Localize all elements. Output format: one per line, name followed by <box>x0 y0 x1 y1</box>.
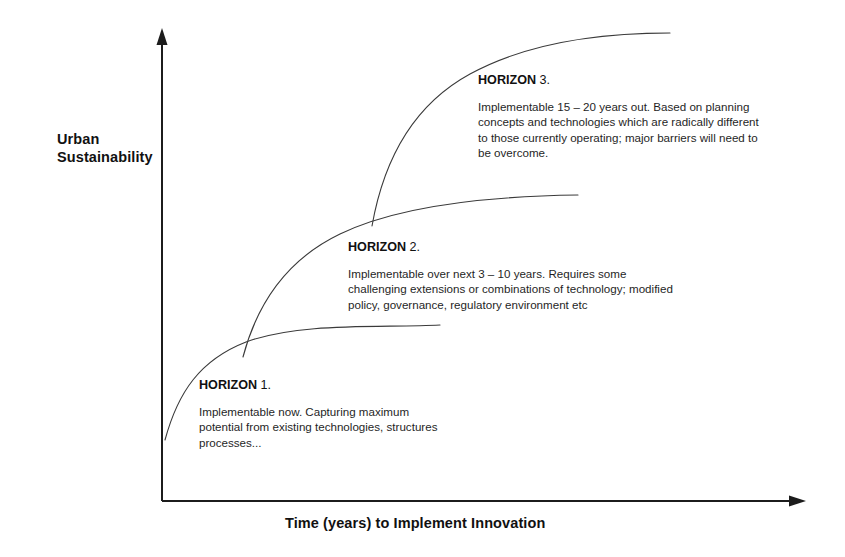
y-axis-label-line-1: Urban <box>57 130 177 148</box>
y-axis-label: Urban Sustainability <box>57 130 177 166</box>
horizon-1-title: HORIZON 1. <box>199 377 499 393</box>
horizon-1-title-number: 1. <box>257 378 271 392</box>
horizon-1-annotation: HORIZON 1. Implementable now. Capturing … <box>199 377 499 450</box>
horizon-3-body: Implementable 15 – 20 years out. Based o… <box>478 99 808 161</box>
horizon-3-title: HORIZON 3. <box>478 72 808 88</box>
horizon-2-title: HORIZON 2. <box>348 239 678 255</box>
three-horizons-diagram: Urban Sustainability Time (years) to Imp… <box>0 0 845 557</box>
x-axis-label: Time (years) to Implement Innovation <box>285 514 705 532</box>
horizon-3-annotation: HORIZON 3. Implementable 15 – 20 years o… <box>478 72 808 161</box>
horizon-2-annotation: HORIZON 2. Implementable over next 3 – 1… <box>348 239 678 312</box>
horizon-2-title-word: HORIZON <box>348 240 406 254</box>
horizon-3-title-word: HORIZON <box>478 73 536 87</box>
horizon-1-body: Implementable now. Capturing maximum pot… <box>199 404 499 450</box>
horizon-1-title-word: HORIZON <box>199 378 257 392</box>
x-axis-arrowhead <box>789 496 806 507</box>
horizon-2-title-number: 2. <box>406 240 420 254</box>
horizon-2-body: Implementable over next 3 – 10 years. Re… <box>348 266 678 312</box>
horizon-3-title-number: 3. <box>536 73 550 87</box>
y-axis-label-line-2: Sustainability <box>57 148 177 166</box>
y-axis-arrowhead <box>157 28 168 45</box>
